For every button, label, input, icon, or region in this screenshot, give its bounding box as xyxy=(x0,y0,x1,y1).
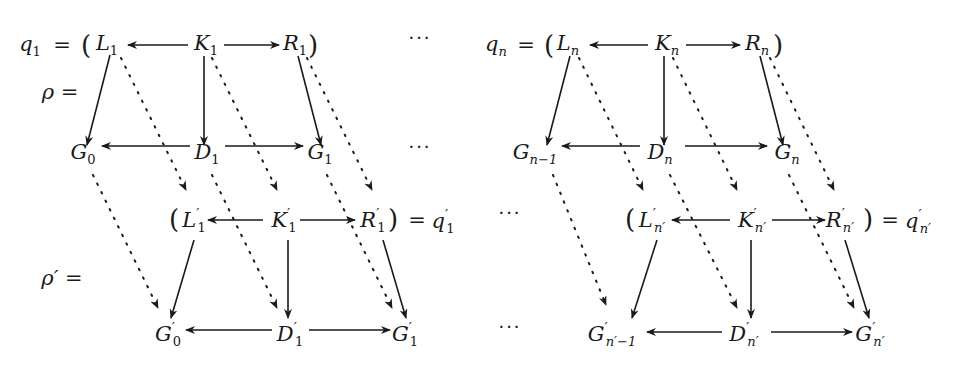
node-Gnprime: G′n′ xyxy=(855,321,884,348)
arrow-L1-to-G0 xyxy=(87,55,110,145)
node-R1: R1 xyxy=(283,33,307,57)
node-Gn-1: Gn−1 xyxy=(513,142,557,166)
dotted-G0-to-G0prime xyxy=(93,175,158,308)
dotted-Gn-to-Gnprime xyxy=(789,175,854,308)
dotted-Ln-to-Lnprime xyxy=(579,58,643,190)
dotted-G1-to-G1prime xyxy=(327,175,392,308)
dotted-Rn-to-Rnprime xyxy=(770,58,834,190)
node-K1: K1 xyxy=(194,33,218,57)
node-R1prime: R′1 xyxy=(360,207,385,234)
arrow-Rn-to-Gn xyxy=(760,56,783,145)
right-paren: ) xyxy=(863,206,873,232)
dotted-Dn-to-Dnprime xyxy=(670,175,737,308)
diagram-arrows xyxy=(0,0,966,366)
node-Dn: Dn xyxy=(647,142,672,166)
label-q1prime: q′1 xyxy=(432,208,455,235)
node-K1prime: K′1 xyxy=(271,207,296,234)
arrow-Rnprime-to-Gnprime xyxy=(845,240,869,318)
right-paren: ) xyxy=(773,32,783,58)
left-paren: ( xyxy=(169,206,179,232)
commutative-diagram: q1 = ( L1 K1 R1 ) ρ = ··· qn = ( Ln Kn R… xyxy=(0,0,966,366)
dotted-K1-to-K1prime xyxy=(212,58,277,190)
ellipsis-row1: ··· xyxy=(408,29,431,47)
dotted-Kn-to-Knprime xyxy=(673,58,737,190)
right-paren: ) xyxy=(308,32,318,58)
node-Lnprime: L′n′ xyxy=(639,207,665,234)
node-L1: L1 xyxy=(96,33,118,57)
label-qnprime: q′n′ xyxy=(905,208,931,235)
ellipsis-row3: ··· xyxy=(498,204,521,222)
left-paren: ( xyxy=(81,32,91,58)
node-G0: G0 xyxy=(70,142,95,166)
node-G1: G1 xyxy=(307,142,332,166)
label-q1: q1 xyxy=(19,34,41,58)
label-rho: ρ = xyxy=(42,82,79,103)
node-Dnprime: D′n′ xyxy=(729,321,758,348)
node-L1prime: L′1 xyxy=(182,207,205,234)
dotted-D1-to-D1prime xyxy=(212,175,277,308)
equals-sign: = xyxy=(517,35,535,56)
node-G0prime: G′0 xyxy=(155,321,181,348)
node-D1: D1 xyxy=(194,142,219,166)
ellipsis-row4: ··· xyxy=(498,318,521,336)
arrow-Ln-to-Gn-1 xyxy=(547,56,570,145)
label-qn: qn xyxy=(485,34,507,58)
ellipsis-row2: ··· xyxy=(408,138,431,156)
node-G1prime: G′1 xyxy=(392,321,418,348)
left-paren: ( xyxy=(544,32,554,58)
node-Rnprime: R′n′ xyxy=(826,207,854,234)
node-D1prime: D′1 xyxy=(277,321,303,348)
node-Rn: Rn xyxy=(745,33,769,57)
dotted-R1-to-R1prime xyxy=(307,58,372,190)
node-Gn-1prime: G′n′−1 xyxy=(588,321,636,348)
dotted-Gn-1-to-Gn-1prime xyxy=(553,175,606,305)
equals-sign: = xyxy=(881,210,899,231)
equals-sign: = xyxy=(408,210,426,231)
right-paren: ) xyxy=(388,206,398,232)
arrow-R1-to-G1 xyxy=(298,56,321,145)
dotted-L1-to-L1prime xyxy=(121,58,186,190)
node-Gn: Gn xyxy=(774,142,799,166)
node-Kn: Kn xyxy=(655,33,679,57)
arrow-Lnprime-to-Gn-1prime xyxy=(632,240,657,318)
arrow-R1prime-to-G1prime xyxy=(383,240,406,318)
left-paren: ( xyxy=(625,206,635,232)
equals-sign: = xyxy=(53,35,71,56)
label-rho-prime: ρ′ = xyxy=(41,268,82,289)
node-Ln: Ln xyxy=(557,33,579,57)
node-Knprime: K′n′ xyxy=(738,207,766,234)
arrow-L1prime-to-G0prime xyxy=(171,240,194,318)
